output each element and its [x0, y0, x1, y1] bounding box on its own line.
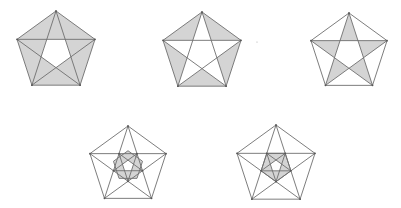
star-point-shade — [349, 58, 373, 86]
vertex-dot — [118, 153, 120, 155]
corner-triangle-shade — [163, 40, 187, 86]
vertex-dot — [290, 170, 292, 172]
vertex-dot — [310, 40, 312, 42]
vertex-dot — [348, 12, 350, 14]
vertex-dot — [251, 198, 253, 200]
pentagon-diagram-canvas — [0, 0, 401, 208]
vertex-dot — [113, 170, 115, 172]
corner-triangle-shade — [217, 40, 241, 86]
vertex-dot — [325, 84, 327, 86]
figure-3 — [310, 12, 388, 86]
vertex-dot — [314, 152, 316, 154]
vertex-dot — [104, 197, 106, 199]
vertex-dot — [127, 125, 129, 127]
vertex-dot — [136, 153, 138, 155]
vertex-dot — [142, 170, 144, 172]
vertex-dot — [177, 85, 179, 87]
vertex-dot — [127, 180, 129, 182]
vertex-dot — [266, 152, 268, 154]
vertex-dot — [236, 152, 238, 154]
vertex-dot — [372, 84, 374, 86]
vertex-dot — [31, 84, 33, 86]
figure-4 — [89, 125, 167, 199]
vertex-dot — [260, 170, 262, 172]
vertex-dot — [151, 197, 153, 199]
figure-2 — [162, 11, 242, 87]
vertex-dot — [225, 85, 227, 87]
vertex-dot — [386, 40, 388, 42]
vertex-dot — [275, 124, 277, 126]
vertex-dot — [55, 10, 57, 12]
vertex-dot — [299, 198, 301, 200]
vertex-dot — [240, 39, 242, 41]
vertex-dot — [89, 153, 91, 155]
vertex-dot — [94, 38, 96, 40]
star-point-shade — [325, 58, 349, 86]
figure-4-shading — [113, 151, 142, 182]
figure-1 — [16, 10, 96, 86]
vertex-dot — [284, 152, 286, 154]
figures-group — [16, 10, 388, 200]
vertex-dot — [275, 181, 277, 183]
figure-5 — [236, 124, 316, 200]
vertex-dot — [201, 11, 203, 13]
vertex-dot — [162, 39, 164, 41]
corner-triangle-shade — [178, 69, 226, 87]
vertex-dot — [79, 84, 81, 86]
vertex-dot — [165, 153, 167, 155]
vertex-dot — [16, 38, 18, 40]
speck-mark — [256, 41, 257, 42]
